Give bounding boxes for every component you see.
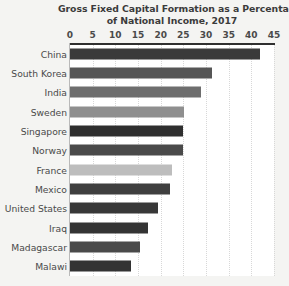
x-tick-label-0: 0 <box>67 30 73 41</box>
bar-united-states <box>70 203 158 214</box>
category-label-mexico: Mexico <box>35 183 67 194</box>
chart-title: Gross Fixed Capital Formation as a Perce… <box>58 3 286 27</box>
x-tick-label-15: 15 <box>132 30 145 41</box>
bar-row: Madagascar <box>0 237 289 256</box>
bar-norway <box>70 145 183 156</box>
bar-row: India <box>0 83 289 102</box>
x-tick-label-35: 35 <box>222 30 235 41</box>
category-label-india: India <box>44 87 67 98</box>
bar-iraq <box>70 222 148 233</box>
category-label-iraq: Iraq <box>49 222 67 233</box>
bar-rows: ChinaSouth KoreaIndiaSwedenSingaporeNorw… <box>0 44 289 276</box>
x-tick-label-45: 45 <box>268 30 281 41</box>
bar-row: Singapore <box>0 121 289 140</box>
x-axis-tick-labels: 051015202530354045 <box>0 30 289 43</box>
chart-container: Gross Fixed Capital Formation as a Perce… <box>0 0 289 286</box>
x-tick-label-30: 30 <box>200 30 213 41</box>
bar-row: Sweden <box>0 102 289 121</box>
bar-row: Iraq <box>0 218 289 237</box>
bar-row: France <box>0 160 289 179</box>
category-label-sweden: Sweden <box>31 106 67 117</box>
category-label-united-states: United States <box>5 203 67 214</box>
bar-south-korea <box>70 67 212 78</box>
x-tick-label-20: 20 <box>154 30 167 41</box>
bar-row: Mexico <box>0 179 289 198</box>
category-label-madagascar: Madagascar <box>11 241 67 252</box>
bar-row: Norway <box>0 141 289 160</box>
category-label-china: China <box>41 48 67 59</box>
bar-malawi <box>70 261 131 272</box>
bar-row: China <box>0 44 289 63</box>
chart-title-line-2: of National Income, 2017 <box>58 15 286 27</box>
bar-row: United States <box>0 199 289 218</box>
bar-row: Malawi <box>0 257 289 276</box>
bar-india <box>70 87 201 98</box>
bar-china <box>70 48 260 59</box>
bar-madagascar <box>70 241 140 252</box>
category-label-france: France <box>36 164 67 175</box>
x-tick-label-25: 25 <box>177 30 190 41</box>
bar-row: South Korea <box>0 63 289 82</box>
bar-mexico <box>70 183 170 194</box>
x-tick-label-10: 10 <box>109 30 122 41</box>
bar-france <box>70 164 172 175</box>
category-label-south-korea: South Korea <box>11 67 67 78</box>
category-label-norway: Norway <box>32 145 67 156</box>
category-label-singapore: Singapore <box>21 125 67 136</box>
x-tick-label-40: 40 <box>245 30 258 41</box>
category-label-malawi: Malawi <box>35 261 67 272</box>
x-tick-label-5: 5 <box>90 30 96 41</box>
chart-title-line-1: Gross Fixed Capital Formation as a Perce… <box>58 3 286 15</box>
bar-sweden <box>70 106 184 117</box>
bar-singapore <box>70 125 183 136</box>
